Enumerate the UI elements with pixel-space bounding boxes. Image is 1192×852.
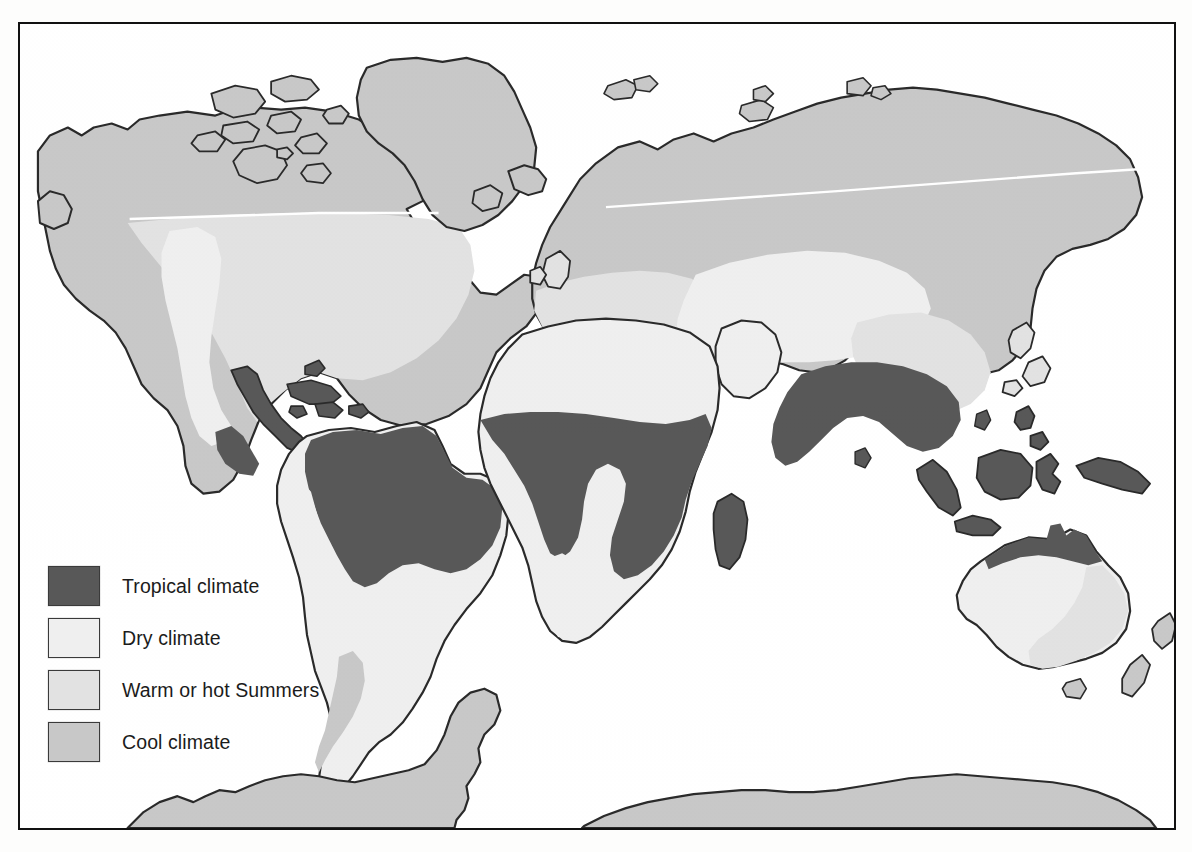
map-legend: Tropical climate Dry climate Warm or hot… [48, 560, 348, 768]
legend-swatch-tropical [48, 566, 100, 606]
borneo [977, 450, 1033, 500]
legend-label-tropical: Tropical climate [122, 575, 259, 598]
map-frame: Tropical climate Dry climate Warm or hot… [18, 22, 1176, 830]
legend-swatch-warm [48, 670, 100, 710]
legend-item-dry: Dry climate [48, 612, 348, 664]
figure-page: Tropical climate Dry climate Warm or hot… [0, 0, 1192, 852]
legend-item-warm: Warm or hot Summers [48, 664, 348, 716]
legend-label-warm: Warm or hot Summers [122, 679, 319, 702]
legend-label-cool: Cool climate [122, 731, 231, 754]
legend-label-dry: Dry climate [122, 627, 221, 650]
legend-item-cool: Cool climate [48, 716, 348, 768]
legend-item-tropical: Tropical climate [48, 560, 348, 612]
legend-swatch-dry [48, 618, 100, 658]
legend-swatch-cool [48, 722, 100, 762]
